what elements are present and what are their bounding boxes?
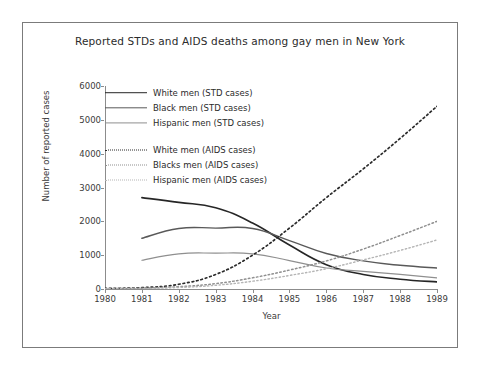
x-tick-label: 1988 [389,294,411,304]
x-tick-label: 1987 [352,294,374,304]
x-tick-mark [363,290,364,293]
x-tick-label: 1989 [426,294,448,304]
y-tick-label: 0 [59,284,101,294]
legend-line-swatch [105,145,147,155]
x-tick-mark [437,290,438,293]
y-tick-mark [101,188,104,189]
x-tick-label: 1986 [316,294,338,304]
chart-legend: White men (STD cases)Black men (STD case… [105,85,315,187]
legend-item[interactable]: Black men (STD cases) [105,100,315,115]
x-tick-label: 1982 [168,294,190,304]
y-axis-label: Number of reported cases [41,71,51,221]
x-tick-label: 1984 [242,294,264,304]
legend-line-swatch [105,88,147,98]
legend-line-swatch [105,160,147,170]
x-axis-tick-labels: 1980198119821983198419851986198719881989 [105,294,438,310]
y-tick-label: 4000 [59,149,101,159]
y-tick-mark [101,289,104,290]
legend-label: White men (AIDS cases) [153,145,256,155]
legend-item[interactable]: White men (AIDS cases) [105,142,315,157]
x-tick-mark [326,290,327,293]
x-tick-mark [289,290,290,293]
legend-line-swatch [105,175,147,185]
legend-label: Hispanic men (STD cases) [153,118,264,128]
legend-item[interactable]: Hispanic men (STD cases) [105,115,315,130]
x-tick-label: 1985 [279,294,301,304]
x-tick-mark [216,290,217,293]
legend-label: Hispanic men (AIDS cases) [153,175,267,185]
y-tick-mark [101,154,104,155]
x-tick-label: 1981 [131,294,153,304]
y-tick-mark [101,221,104,222]
legend-item[interactable]: White men (STD cases) [105,85,315,100]
series-line [142,198,437,282]
x-axis-label: Year [105,311,438,321]
y-axis-tick-labels: 0100020003000400050006000 [51,86,101,290]
legend-label: Black men (STD cases) [153,103,251,113]
y-tick-mark [101,120,104,121]
y-tick-label: 2000 [59,216,101,226]
x-tick-mark [105,290,106,293]
x-tick-label: 1980 [94,294,116,304]
y-tick-mark [101,86,104,87]
y-tick-label: 1000 [59,250,101,260]
x-tick-mark [400,290,401,293]
x-tick-mark [179,290,180,293]
chart-root: Reported STDs and AIDS deaths among gay … [23,23,457,347]
legend-label: Blacks men (AIDS cases) [153,160,258,170]
figure-frame: Reported STDs and AIDS deaths among gay … [22,22,458,348]
y-tick-mark [101,255,104,256]
x-tick-mark [142,290,143,293]
series-line [142,253,437,278]
legend-line-swatch [105,118,147,128]
legend-group-separator [105,130,315,142]
series-line [142,227,437,268]
legend-item[interactable]: Hispanic men (AIDS cases) [105,172,315,187]
x-tick-mark [253,290,254,293]
y-tick-label: 5000 [59,115,101,125]
legend-line-swatch [105,103,147,113]
legend-label: White men (STD cases) [153,88,252,98]
y-tick-label: 6000 [59,81,101,91]
legend-item[interactable]: Blacks men (AIDS cases) [105,157,315,172]
y-tick-label: 3000 [59,183,101,193]
x-tick-label: 1983 [205,294,227,304]
chart-title: Reported STDs and AIDS deaths among gay … [23,35,457,47]
